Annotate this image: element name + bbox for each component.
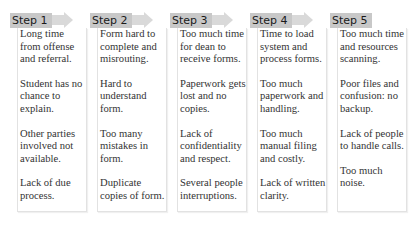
issue-item: Several people interruptions. — [180, 177, 246, 202]
issue-item: Lack of people to handle calls. — [340, 128, 406, 153]
issue-item: Long time from offense and referral. — [20, 28, 86, 66]
issue-item: Other parties involved not available. — [20, 128, 86, 166]
issue-item: Duplicate copies of form. — [100, 177, 166, 202]
issue-item: Lack of written clarity. — [260, 177, 326, 202]
step-5: Step 5 Too much time and resources scann… — [330, 13, 408, 28]
step-header: Step 4 — [250, 13, 328, 28]
step-2: Step 2 Form hard to complete and misrout… — [90, 13, 168, 28]
step-label: Step 3 — [170, 13, 212, 28]
issues-box: Form hard to complete and misrouting. Ha… — [97, 28, 167, 212]
issue-item: Time to load system and process forms. — [260, 28, 326, 66]
step-label: Step 5 — [330, 13, 372, 28]
issues-box: Time to load system and process forms. T… — [257, 28, 327, 212]
step-1: Step 1 Long time from offense and referr… — [10, 13, 88, 28]
issue-item: Poor files and confusion: no backup. — [340, 78, 406, 116]
step-header: Step 2 — [90, 13, 168, 28]
step-header: Step 1 — [10, 13, 88, 28]
issue-item: Hard to understand form. — [100, 78, 166, 116]
step-header: Step 5 — [330, 13, 408, 28]
step-4: Step 4 Time to load system and process f… — [250, 13, 328, 28]
issues-box: Long time from offense and referral. Stu… — [17, 28, 87, 212]
issue-item: Form hard to complete and misrouting. — [100, 28, 166, 66]
issue-item: Too much noise. — [340, 165, 406, 190]
step-3: Step 3 Too much time for dean to receive… — [170, 13, 248, 28]
step-label: Step 4 — [250, 13, 292, 28]
issue-item: Too many mistakes in form. — [100, 128, 166, 166]
issue-item: Too much paperwork and handling. — [260, 78, 326, 116]
step-header: Step 3 — [170, 13, 248, 28]
issue-item: Paperwork gets lost and no copies. — [180, 78, 246, 116]
issue-item: Too much time for dean to receive forms. — [180, 28, 246, 66]
step-label: Step 1 — [10, 13, 52, 28]
issues-box: Too much time for dean to receive forms.… — [177, 28, 247, 212]
step-label: Step 2 — [90, 13, 132, 28]
issues-box: Too much time and resources scanning. Po… — [337, 28, 407, 212]
issue-item: Too much manual filing and costly. — [260, 128, 326, 166]
issue-item: Lack of due process. — [20, 177, 86, 202]
issue-item: Lack of confidentiality and respect. — [180, 128, 246, 166]
issue-item: Student has no chance to explain. — [20, 78, 86, 116]
issue-item: Too much time and resources scanning. — [340, 28, 406, 66]
